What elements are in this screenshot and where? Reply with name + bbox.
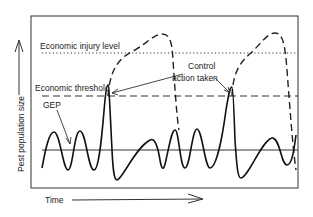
- x-axis-arrow-shaft: [72, 199, 202, 200]
- control-label-line1: Control: [188, 62, 215, 71]
- x-axis-label: Time: [45, 196, 64, 205]
- gep-label: GEP: [43, 101, 61, 110]
- pest-population-diagram: Economic injury level Economic threshold…: [0, 0, 313, 217]
- population-curve: [42, 85, 296, 180]
- y-axis-label: Pest population size: [17, 96, 26, 172]
- control-label-line2: action taken: [172, 74, 218, 83]
- economic-injury-level-label: Economic injury level: [40, 42, 120, 51]
- x-axis-arrowhead-icon: [188, 194, 203, 203]
- economic-threshold-label: Economic threshold: [35, 84, 110, 93]
